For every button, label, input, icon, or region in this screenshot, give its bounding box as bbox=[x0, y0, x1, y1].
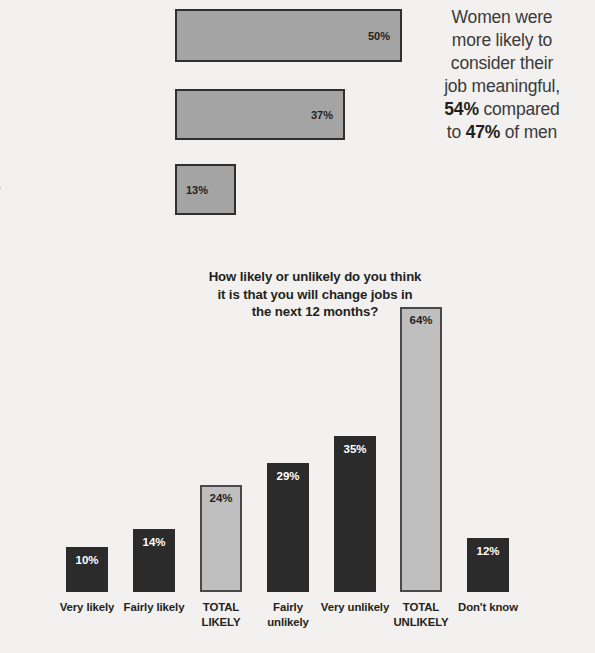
hbar-bar: 37% bbox=[175, 89, 345, 140]
callout-line-1: Women were bbox=[412, 6, 592, 29]
vbar-value-label: 12% bbox=[469, 545, 507, 557]
callout-line-5: 54% compared bbox=[412, 98, 592, 121]
vbar-value-label: 14% bbox=[135, 536, 173, 548]
vbar-value-label: 64% bbox=[402, 314, 440, 326]
vbar-value-label: 24% bbox=[202, 492, 240, 504]
hbar-value-label: 50% bbox=[368, 30, 390, 42]
vbar-bar: 10% bbox=[66, 547, 108, 592]
callout-line-5-rest: compared bbox=[479, 99, 560, 119]
callout-text: Women were more likely to consider their… bbox=[412, 6, 592, 145]
vbar-value-label: 29% bbox=[269, 470, 307, 482]
vbar-bar: 12% bbox=[467, 538, 509, 592]
callout-line-3: consider their bbox=[412, 52, 592, 75]
infographic-canvas: Is making a meaningful contribution to t… bbox=[0, 0, 595, 653]
vbar-value-label: 35% bbox=[336, 443, 374, 455]
bottom-bar-chart: How likely or unlikely do you think it i… bbox=[0, 230, 595, 653]
vbar-bar: 35% bbox=[334, 436, 376, 592]
callout-line-2: more likely to bbox=[412, 29, 592, 52]
callout-stat-men: 47% bbox=[466, 122, 500, 142]
callout-line-6: to 47% of men bbox=[412, 121, 592, 144]
bottom-chart-title-line-1: How likely or unlikely do you think bbox=[150, 268, 480, 286]
vbar-category-label: TOTAL LIKELY bbox=[186, 600, 256, 629]
vbar-bar: 29% bbox=[267, 463, 309, 592]
vbar-bar: 24% bbox=[200, 485, 242, 592]
hbar-value-label: 13% bbox=[186, 184, 208, 196]
vbar-bar: 64% bbox=[400, 307, 442, 592]
vbar-bar: 14% bbox=[133, 529, 175, 592]
callout-line-6-pre: to bbox=[447, 122, 466, 142]
bottom-chart-title-line-2: it is that you will change jobs in bbox=[150, 286, 480, 304]
callout-line-6-rest: of men bbox=[500, 122, 557, 142]
callout-line-4: job meaningful, bbox=[412, 75, 592, 98]
hbar-bar: 13% bbox=[175, 164, 236, 215]
vbar-category-label: Don't know bbox=[445, 600, 531, 615]
callout-stat-women: 54% bbox=[444, 99, 478, 119]
vbar-value-label: 10% bbox=[68, 554, 106, 566]
hbar-bar: 50% bbox=[175, 9, 402, 62]
hbar-value-label: 37% bbox=[311, 109, 333, 121]
